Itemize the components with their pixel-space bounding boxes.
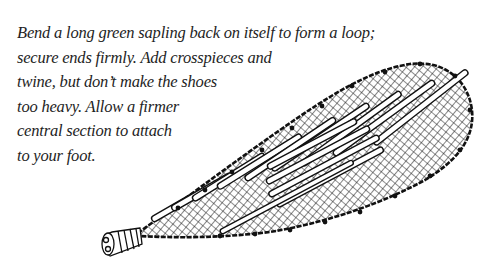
tied-end bbox=[102, 228, 142, 256]
snowshoe-illustration bbox=[0, 0, 480, 265]
